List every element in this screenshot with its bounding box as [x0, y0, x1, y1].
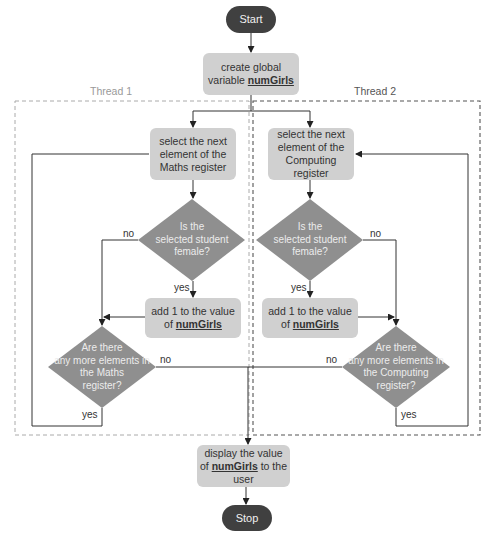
d-prefix: of [200, 460, 212, 472]
edge-label-female-right-yes: yes [291, 282, 307, 293]
add-right-label: add 1 to the value of numGirls [262, 298, 358, 338]
edge-label-female-left-yes: yes [174, 282, 190, 293]
more-computing-label: Are there any more elements in the Compu… [346, 340, 446, 394]
edge-label-maths-no: no [160, 354, 171, 365]
al-prefix: of [164, 318, 176, 330]
fr-l1: Is the [298, 221, 322, 234]
numgirls-var: numGirls [212, 460, 258, 472]
create-line1: create global [221, 61, 281, 74]
ar-l1: add 1 to the value [268, 305, 351, 318]
fr-l3: female? [292, 246, 328, 259]
fr-l2: selected student [274, 234, 347, 247]
al-l1: add 1 to the value [151, 305, 234, 318]
numgirls-var: numGirls [293, 318, 339, 330]
select-maths-label: select the next element of the Maths reg… [150, 128, 236, 180]
fl-l1: Is the [180, 221, 204, 234]
edge-label-computing-yes: yes [401, 409, 417, 420]
mc-l1: Are there [375, 342, 416, 355]
thread2-label: Thread 2 [354, 85, 396, 97]
edge-label-maths-yes: yes [82, 409, 98, 420]
more-maths-label: Are there any more elements in the Maths… [52, 340, 152, 394]
stop-label: Stop [222, 505, 272, 531]
edge-label-female-left-no: no [123, 228, 134, 239]
mc-l4: register? [377, 380, 416, 393]
female-right-label: Is the selected student female? [264, 218, 356, 262]
sc-l2: element of the [278, 141, 345, 154]
d-l1: display the value [204, 447, 282, 460]
start-label: Start [226, 6, 276, 33]
select-computing-label: select the next element of the Computing… [268, 128, 354, 180]
mc-l3: the Computing [363, 367, 428, 380]
sm-l1: select the next [159, 135, 227, 148]
numgirls-var: numGirls [248, 74, 294, 86]
ar-prefix: of [281, 318, 293, 330]
d-l2: of numGirls to the user [192, 460, 295, 486]
ar-l2: of numGirls [281, 318, 339, 331]
display-label: display the value of numGirls to the use… [192, 445, 295, 487]
mm-l1: Are there [81, 342, 122, 355]
numgirls-var: numGirls [176, 318, 222, 330]
sm-l3: Maths register [160, 161, 227, 174]
flowchart: Start create global variable numGirls Th… [0, 0, 495, 542]
create-line2: variable numGirls [208, 74, 294, 87]
mm-l4: register? [83, 380, 122, 393]
fl-l2: selected student [156, 234, 229, 247]
al-l2: of numGirls [164, 318, 222, 331]
thread1-label: Thread 1 [90, 85, 132, 97]
sc-l3: Computing register [268, 154, 354, 180]
create-prefix: variable [208, 74, 248, 86]
mm-l2: any more elements in [54, 355, 150, 368]
edge-label-female-right-no: no [370, 228, 381, 239]
mc-l2: any more elements in [348, 355, 444, 368]
fl-l3: female? [174, 246, 210, 259]
mm-l3: the Maths [80, 367, 124, 380]
female-left-label: Is the selected student female? [146, 218, 238, 262]
create-variable-label: create global variable numGirls [203, 53, 299, 95]
edge-label-computing-no: no [326, 354, 337, 365]
add-left-label: add 1 to the value of numGirls [145, 298, 241, 338]
sm-l2: element of the [160, 148, 227, 161]
sc-l1: select the next [277, 128, 345, 141]
